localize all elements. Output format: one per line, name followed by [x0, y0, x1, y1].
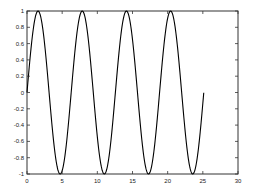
- x-axis: 051015202530: [25, 11, 242, 184]
- y-tick-label: -0.8: [14, 155, 25, 161]
- x-tick-label: 5: [60, 178, 64, 184]
- line-chart: 051015202530 -1-0.8-0.6-0.4-0.200.20.40.…: [0, 0, 253, 192]
- x-tick-label: 0: [25, 178, 29, 184]
- x-tick-label: 25: [199, 178, 206, 184]
- x-tick-label: 20: [164, 178, 171, 184]
- y-tick-label: -0.2: [14, 106, 25, 112]
- plot-area: [27, 11, 238, 174]
- y-tick-label: 1: [21, 8, 25, 14]
- x-tick-label: 15: [129, 178, 136, 184]
- series-line: [27, 11, 204, 174]
- y-tick-label: -1: [19, 171, 25, 177]
- y-axis: -1-0.8-0.6-0.4-0.200.20.40.60.81: [14, 8, 238, 177]
- y-tick-label: 0.2: [16, 73, 25, 79]
- y-tick-label: 0.6: [16, 41, 25, 47]
- y-tick-label: -0.4: [14, 122, 25, 128]
- y-tick-label: 0: [21, 90, 25, 96]
- x-tick-label: 30: [235, 178, 242, 184]
- y-tick-label: -0.6: [14, 138, 25, 144]
- y-tick-label: 0.8: [16, 24, 25, 30]
- x-tick-label: 10: [94, 178, 101, 184]
- y-tick-label: 0.4: [16, 57, 25, 63]
